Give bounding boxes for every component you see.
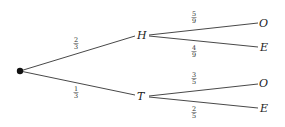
prob-H-E: 4 9 (192, 44, 197, 59)
prob-H-O: 5 9 (192, 10, 197, 25)
svg-text:3: 3 (74, 43, 78, 51)
node-H-E: E (259, 41, 268, 54)
prob-root-H: 2 3 (74, 36, 79, 51)
root-node-dot (17, 68, 23, 74)
svg-text:3: 3 (74, 92, 78, 100)
edge-T-E (149, 97, 258, 108)
probability-tree: H T O E O E 2 3 1 3 5 9 4 9 3 5 2 5 (0, 0, 285, 127)
node-H: H (136, 29, 147, 42)
node-T-E: E (259, 102, 268, 115)
prob-T-E: 2 5 (192, 105, 197, 120)
prob-T-O: 3 5 (192, 71, 197, 86)
edge-T-O (149, 84, 258, 96)
svg-text:5: 5 (192, 78, 196, 86)
svg-text:9: 9 (192, 51, 196, 59)
edge-H-E (149, 36, 258, 47)
svg-text:9: 9 (192, 17, 196, 25)
svg-text:5: 5 (192, 112, 196, 120)
node-T: T (137, 90, 146, 103)
node-H-O: O (259, 17, 268, 30)
node-T-O: O (259, 77, 268, 90)
prob-root-T: 1 3 (74, 85, 79, 100)
edge-H-O (149, 23, 258, 35)
